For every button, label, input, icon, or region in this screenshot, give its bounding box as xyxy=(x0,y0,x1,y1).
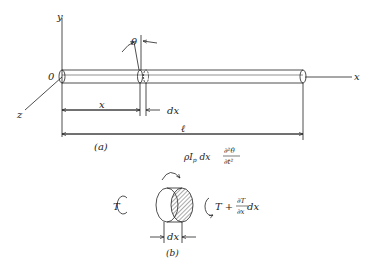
figure-b xyxy=(117,172,213,243)
figure-a xyxy=(25,18,352,140)
rod-end-right xyxy=(300,70,306,83)
torsion-diagram: y 0 z x θ x dx ℓ (a) T ρIp dx ∂²θ ∂t² T … xyxy=(0,0,372,278)
torque-right-dx: dx xyxy=(247,201,259,212)
caption-a: (a) xyxy=(94,141,108,152)
element-right-face xyxy=(144,70,149,83)
torque-left-label: T xyxy=(113,201,121,212)
origin-label: 0 xyxy=(48,71,55,82)
y-axis-label: y xyxy=(56,11,63,22)
theta-label: θ xyxy=(131,36,137,47)
caption-b: (b) xyxy=(166,248,179,258)
element-left-face xyxy=(138,70,143,83)
length-label: ℓ xyxy=(181,123,185,134)
dx-b-label: dx xyxy=(167,231,179,242)
x-dimension-label: x xyxy=(99,99,105,110)
torque-right-num: ∂T xyxy=(237,197,247,205)
torque-right-arrow xyxy=(205,198,213,216)
dx-dimension-label: dx xyxy=(167,105,179,116)
torque-right-label: T + xyxy=(215,201,233,212)
torque-right-den: ∂x xyxy=(237,208,245,216)
z-axis xyxy=(25,77,62,110)
deriv-num: ∂²θ xyxy=(224,147,235,155)
z-axis-label: z xyxy=(16,109,23,120)
deriv-den: ∂t² xyxy=(224,158,233,166)
disk-front-face xyxy=(171,188,193,222)
x-axis-label: x xyxy=(354,71,360,82)
inertia-arrow xyxy=(162,172,180,180)
inertia-label: ρIp dx xyxy=(183,152,210,164)
